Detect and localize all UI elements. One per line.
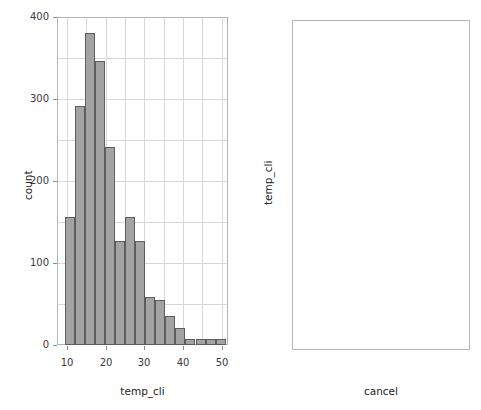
histogram-panel: 01002003004001020304050 temp_cli count bbox=[0, 0, 250, 410]
histogram-ytick bbox=[53, 17, 57, 18]
histogram-ytick bbox=[53, 345, 57, 346]
histogram-ylabel: count bbox=[22, 170, 34, 200]
histogram-xtick bbox=[183, 346, 184, 350]
histogram-bar bbox=[185, 339, 195, 345]
histogram-xtick-label: 20 bbox=[86, 358, 126, 368]
histogram-ytick-label: 300 bbox=[11, 94, 49, 104]
histogram-xtick-label: 10 bbox=[47, 358, 87, 368]
histogram-ytick-label: 0 bbox=[11, 340, 49, 350]
histogram-ytick bbox=[53, 263, 57, 264]
histogram-xtick-label: 50 bbox=[202, 358, 242, 368]
histogram-bar bbox=[175, 328, 185, 345]
histogram-bar bbox=[165, 316, 175, 345]
figure-canvas: 01002003004001020304050 temp_cli count n… bbox=[0, 0, 481, 410]
histogram-ytick bbox=[53, 181, 57, 182]
histogram-xtick-label: 30 bbox=[124, 358, 164, 368]
histogram-bar bbox=[135, 241, 145, 345]
histogram-bar bbox=[216, 339, 226, 345]
histogram-xtick bbox=[222, 346, 223, 350]
histogram-ytick-label: 100 bbox=[11, 258, 49, 268]
boxplot-xlabel: cancel bbox=[292, 385, 470, 397]
histogram-bar bbox=[196, 339, 206, 345]
histogram-bar bbox=[95, 61, 105, 345]
histogram-bar bbox=[155, 300, 165, 345]
histogram-bar bbox=[85, 33, 95, 345]
histogram-ytick-label: 400 bbox=[11, 12, 49, 22]
boxplot-ylabel: temp_cli bbox=[262, 161, 274, 205]
histogram-bar bbox=[206, 339, 216, 345]
histogram-bar bbox=[105, 147, 115, 345]
histogram-bar bbox=[115, 241, 125, 345]
histogram-ytick bbox=[53, 99, 57, 100]
histogram-bar bbox=[125, 217, 135, 345]
histogram-gridline-horizontal bbox=[58, 58, 227, 59]
boxplot-panel: naosim20304050 cancel temp_cli bbox=[250, 0, 481, 410]
histogram-bar bbox=[65, 217, 75, 345]
histogram-xtick bbox=[144, 346, 145, 350]
histogram-xlabel: temp_cli bbox=[57, 385, 228, 397]
histogram-xtick-label: 40 bbox=[163, 358, 203, 368]
boxplot-plot-area bbox=[292, 20, 470, 350]
histogram-bar bbox=[75, 106, 85, 345]
histogram-gridline-horizontal bbox=[58, 99, 227, 100]
histogram-xtick bbox=[106, 346, 107, 350]
histogram-xtick bbox=[67, 346, 68, 350]
histogram-bar bbox=[145, 297, 155, 345]
